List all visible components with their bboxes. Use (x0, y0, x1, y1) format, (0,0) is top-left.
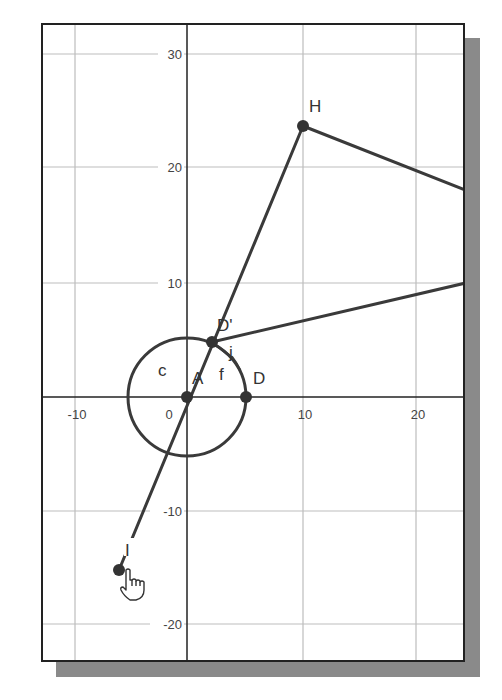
label-H: H (309, 97, 321, 116)
y-tick-neg20: -20 (163, 617, 182, 632)
tick-labels: 30 20 10 -10 -20 -10 0 10 20 (68, 45, 426, 632)
point-I[interactable] (113, 564, 125, 576)
point-D[interactable] (240, 391, 252, 403)
label-D: D (253, 369, 265, 388)
point-D-prime[interactable] (206, 336, 218, 348)
segment-H-right[interactable] (303, 126, 470, 192)
y-tick-20: 20 (168, 160, 182, 175)
pointing-hand-icon (121, 569, 144, 600)
x-tick-neg10: -10 (68, 407, 87, 422)
y-tick-10: 10 (168, 276, 182, 291)
x-tick-10: 10 (298, 407, 312, 422)
label-I: I (125, 541, 130, 560)
ray-D-prime[interactable] (212, 282, 470, 342)
x-tick-20: 20 (411, 407, 425, 422)
point-A[interactable] (181, 391, 193, 403)
x-tick-0: 0 (165, 407, 172, 422)
arc-f[interactable] (232, 357, 240, 370)
label-f: f (219, 365, 224, 384)
label-j: j (228, 343, 233, 362)
y-tick-neg10: -10 (163, 504, 182, 519)
point-H[interactable] (297, 120, 309, 132)
grid (43, 25, 463, 660)
geometry-canvas[interactable]: 30 20 10 -10 -20 -10 0 10 20 (0, 0, 502, 700)
segment-IH[interactable] (119, 126, 303, 570)
y-tick-30: 30 (168, 47, 182, 62)
label-A: A (192, 369, 204, 388)
axes (43, 25, 463, 660)
label-c: c (158, 361, 167, 380)
label-D-prime: D' (217, 316, 233, 335)
